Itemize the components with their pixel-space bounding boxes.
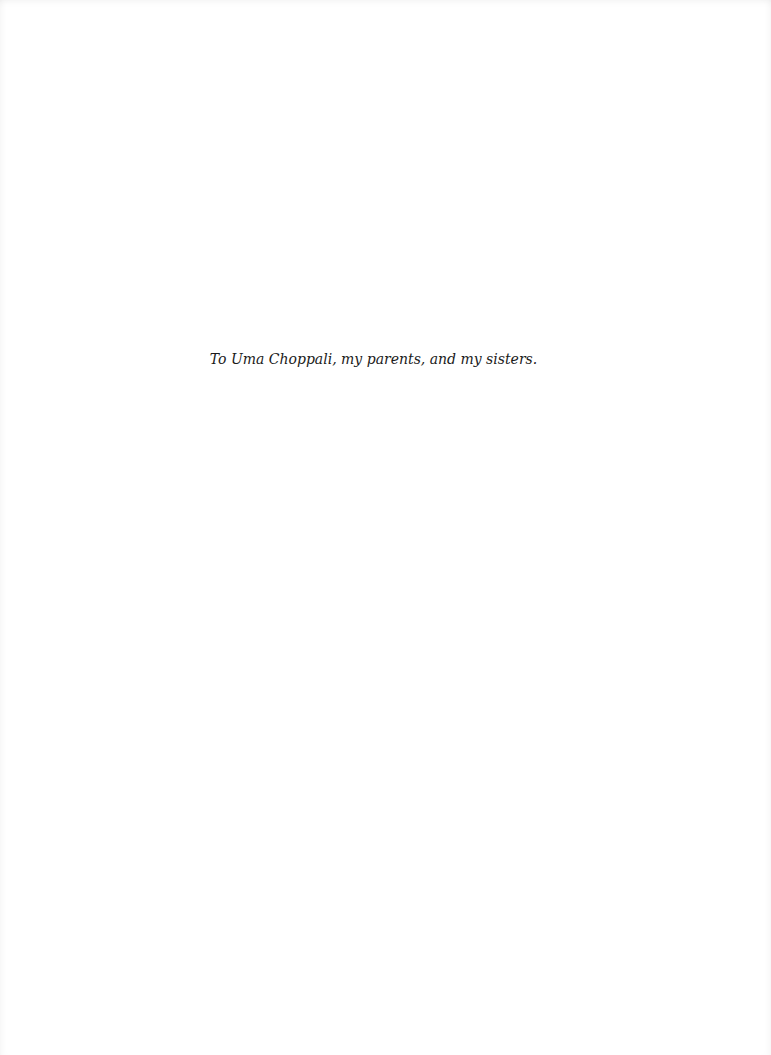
document-page: To Uma Choppali, my parents, and my sist… bbox=[0, 0, 771, 1055]
dedication-text: To Uma Choppali, my parents, and my sist… bbox=[210, 349, 537, 369]
dedication: To Uma Choppali, my parents, and my sist… bbox=[0, 349, 771, 369]
